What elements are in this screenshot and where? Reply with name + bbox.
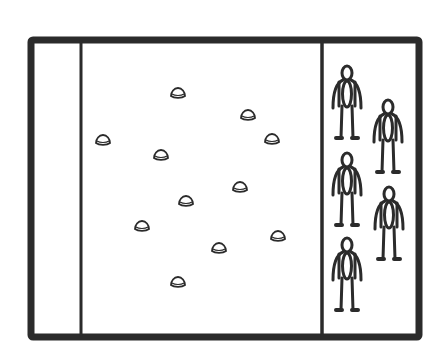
player-icon: [374, 100, 402, 172]
field-diagram: [0, 0, 446, 362]
cone-icon: [265, 134, 279, 144]
cone-icon: [171, 277, 185, 287]
cone-icon: [271, 231, 285, 241]
player-icon: [375, 187, 403, 259]
cone-icon: [233, 182, 247, 192]
player-icon: [333, 153, 361, 225]
player-icon: [333, 66, 361, 138]
cone-icon: [179, 196, 193, 206]
cone-icon: [241, 110, 255, 120]
cone-icon: [212, 243, 226, 253]
cone-icon: [171, 88, 185, 98]
cone-icon: [135, 221, 149, 231]
cone-icon: [154, 150, 168, 160]
cone-icon: [96, 135, 110, 145]
player-icon: [333, 238, 361, 310]
